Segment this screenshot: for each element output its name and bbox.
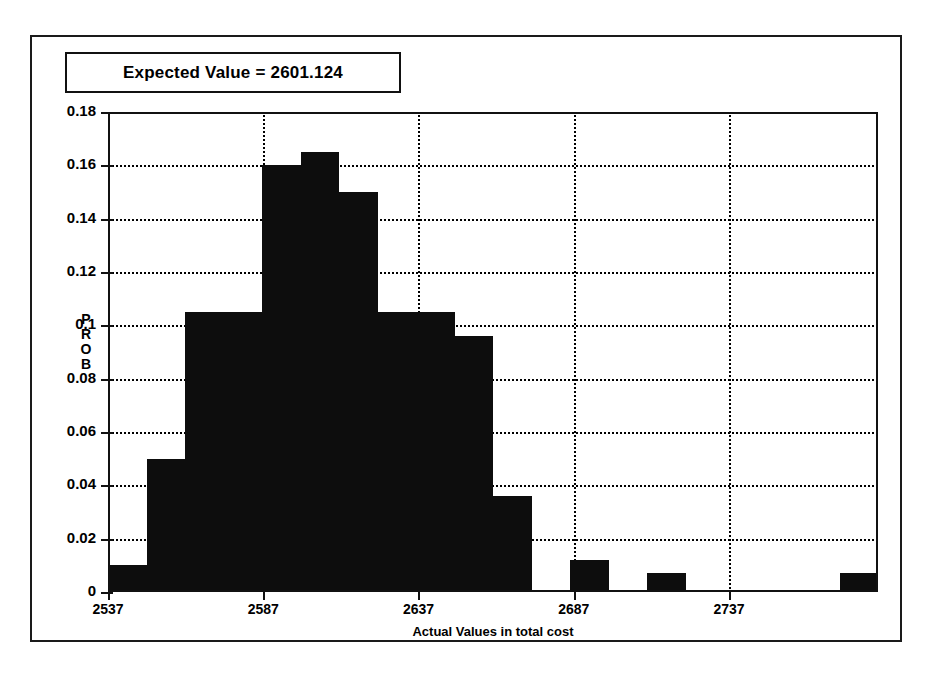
histogram-bar: [224, 312, 263, 592]
vertical-gridline: [574, 112, 576, 592]
histogram-bar: [647, 573, 686, 592]
x-axis-tick-label: 2737: [689, 601, 769, 617]
y-axis-tick-label: 0.14: [26, 209, 96, 226]
horizontal-gridline: [108, 272, 878, 274]
histogram-bar: [493, 496, 532, 592]
y-axis-tick: [101, 325, 113, 327]
x-axis-tick: [418, 592, 420, 600]
y-axis-tick-label: 0.06: [26, 422, 96, 439]
vertical-gridline: [729, 112, 731, 592]
y-axis-tick-label: 0.02: [26, 529, 96, 546]
x-axis-tick: [108, 592, 110, 600]
y-axis-tick: [101, 485, 113, 487]
y-axis-tick-label: 0.1: [26, 315, 96, 332]
x-axis-title: Actual Values in total cost: [108, 624, 878, 639]
histogram-bar: [108, 565, 147, 592]
y-axis-tick: [101, 272, 113, 274]
expected-value-box: Expected Value = 2601.124: [65, 52, 401, 93]
histogram-bar: [262, 165, 301, 592]
y-axis-tick: [101, 432, 113, 434]
histogram-bar: [339, 192, 378, 592]
y-axis-tick: [101, 539, 113, 541]
y-axis-tick: [101, 112, 113, 114]
y-axis-tick: [101, 219, 113, 221]
y-axis-tick-label: 0.16: [26, 155, 96, 172]
y-axis-tick-label: 0.18: [26, 102, 96, 119]
y-axis-tick: [101, 379, 113, 381]
horizontal-gridline: [108, 219, 878, 221]
histogram-bar: [301, 152, 340, 592]
expected-value-label: Expected Value = 2601.124: [123, 63, 343, 83]
y-axis-title-letter: O: [78, 342, 94, 357]
histogram-figure: Expected Value = 2601.124 PROB 00.020.04…: [0, 0, 932, 699]
horizontal-gridline: [108, 165, 878, 167]
y-axis-tick-label: 0.08: [26, 369, 96, 386]
histogram-bar: [416, 312, 455, 592]
histogram-bar: [840, 573, 879, 592]
histogram-bar: [378, 312, 417, 592]
histogram-bar: [185, 312, 224, 592]
x-axis-tick-label: 2587: [223, 601, 303, 617]
x-axis-tick-label: 2687: [534, 601, 614, 617]
x-axis-tick: [574, 592, 576, 600]
x-axis-tick-label: 2537: [68, 601, 148, 617]
histogram-bar: [147, 459, 186, 592]
histogram-bar: [570, 560, 609, 592]
histogram-bar: [455, 336, 494, 592]
y-axis-tick-label: 0.12: [26, 262, 96, 279]
x-axis-tick: [263, 592, 265, 600]
y-axis-tick-label: 0: [26, 582, 96, 599]
x-axis-tick-label: 2637: [378, 601, 458, 617]
x-axis-tick: [729, 592, 731, 600]
y-axis-tick: [101, 592, 113, 594]
y-axis-tick-label: 0.04: [26, 475, 96, 492]
plot-area: [108, 112, 878, 592]
y-axis-tick: [101, 165, 113, 167]
